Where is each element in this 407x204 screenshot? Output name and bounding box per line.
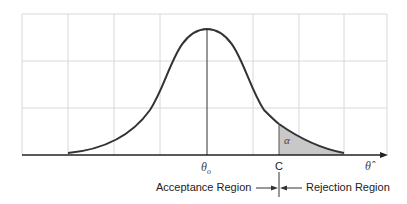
rejection-region-label: Rejection Region [306, 181, 390, 193]
critical-value-label: C [275, 160, 283, 172]
acceptance-region-label: Acceptance Region [156, 181, 251, 193]
rejection-arrow-icon [280, 186, 287, 191]
alpha-label: α [284, 134, 290, 146]
grid [22, 14, 387, 155]
acceptance-arrow-icon [271, 186, 278, 191]
theta0-subscript: o [207, 167, 211, 176]
normal-curve [68, 29, 344, 153]
theta-hat-label: θ̂ [365, 159, 371, 174]
theta0-label: θo [201, 160, 211, 176]
